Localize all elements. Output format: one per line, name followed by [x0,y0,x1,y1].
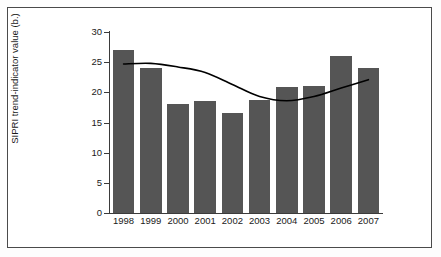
y-tick-mark [104,183,109,184]
x-tick-label-2004: 2004 [273,216,300,226]
x-tick-label-2001: 2001 [192,216,219,226]
x-tick-label-2007: 2007 [355,216,382,226]
trend-line-series [110,32,382,213]
chart-figure: SIPRI trend-indicator value (b.) 0510152… [0,0,441,257]
y-axis-tick-labels: 051015202530 [76,0,102,257]
y-tick-label: 20 [80,87,102,97]
x-tick-label-2005: 2005 [300,216,327,226]
trend-line-path [124,63,369,101]
x-tick-label-1999: 1999 [137,216,164,226]
plot-area [110,32,382,213]
x-axis-line [109,213,383,214]
x-tick-label-2006: 2006 [328,216,355,226]
x-tick-label-1998: 1998 [110,216,137,226]
y-tick-mark [104,62,109,63]
y-tick-mark [104,213,109,214]
y-tick-mark [104,153,109,154]
y-axis-title: SIPRI trend-indicator value (b.) [9,4,20,154]
y-tick-label: 30 [80,27,102,37]
y-tick-label: 25 [80,57,102,67]
x-tick-label-2002: 2002 [219,216,246,226]
y-tick-label: 0 [80,208,102,218]
y-tick-mark [104,123,109,124]
y-tick-mark [104,92,109,93]
y-tick-label: 10 [80,148,102,158]
y-tick-mark [104,32,109,33]
x-tick-label-2003: 2003 [246,216,273,226]
x-tick-label-2000: 2000 [164,216,191,226]
y-tick-label: 5 [80,178,102,188]
y-tick-label: 15 [80,118,102,128]
x-axis-tick-labels: 1998199920002001200220032004200520062007 [110,216,382,232]
